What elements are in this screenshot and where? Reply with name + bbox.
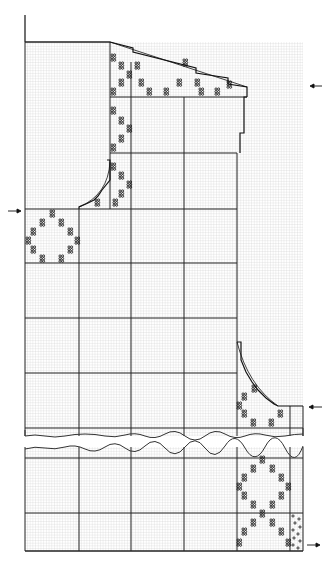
- arrow-left-icon: [310, 84, 322, 88]
- arrow-right-icon: [307, 543, 320, 547]
- arrow-left-icon: [309, 405, 322, 409]
- arrow-right-icon: [8, 209, 21, 213]
- graph-paper: [25, 42, 303, 551]
- knitting-chart: [0, 0, 332, 573]
